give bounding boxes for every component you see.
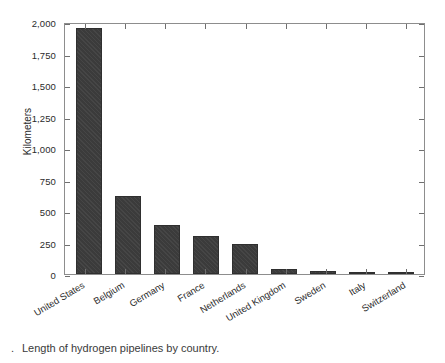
- x-axis-tick: [366, 269, 367, 274]
- x-axis-tick-top: [165, 24, 166, 29]
- y-axis-tick-label: 250: [40, 238, 56, 249]
- x-axis-tick: [406, 269, 407, 274]
- x-axis-tick: [286, 269, 287, 274]
- y-axis-tick-label: 1,000: [32, 144, 56, 155]
- bar[interactable]: [154, 225, 180, 274]
- bar[interactable]: [76, 28, 102, 274]
- y-axis-tick-right: [419, 24, 424, 25]
- plot-area: [64, 23, 425, 275]
- bar[interactable]: [388, 272, 414, 274]
- y-axis-tick-label: 1,750: [32, 49, 56, 60]
- x-axis-tick-top: [406, 24, 407, 29]
- x-axis-tick-top: [366, 24, 367, 29]
- x-axis-tick-top: [326, 24, 327, 29]
- bar[interactable]: [271, 269, 297, 274]
- x-axis-tick: [205, 269, 206, 274]
- y-axis-tick: [65, 150, 70, 151]
- y-axis-tick-right: [419, 213, 424, 214]
- bar-slot: [108, 24, 147, 274]
- caption-marker: .: [0, 341, 16, 355]
- y-axis-tick: [65, 182, 70, 183]
- bar-slot: [225, 24, 264, 274]
- y-axis-tick-label: 750: [40, 175, 56, 186]
- bar-slot: [147, 24, 186, 274]
- y-axis-tick-right: [419, 87, 424, 88]
- y-axis-tick: [65, 213, 70, 214]
- x-axis-tick: [165, 269, 166, 274]
- y-axis-tick-right: [419, 182, 424, 183]
- y-axis-tick: [65, 24, 70, 25]
- y-axis-tick-label: 1,500: [32, 81, 56, 92]
- y-axis-tick-label: 500: [40, 207, 56, 218]
- x-axis-tick-top: [246, 24, 247, 29]
- x-axis-tick-top: [286, 24, 287, 29]
- bar-slot: [264, 24, 303, 274]
- bars-layer: [65, 24, 424, 274]
- bar[interactable]: [310, 271, 336, 274]
- y-axis-tick-label: 0: [51, 270, 56, 281]
- x-axis-tick: [85, 269, 86, 274]
- y-axis-tick-right: [419, 56, 424, 57]
- x-axis-tick-top: [205, 24, 206, 29]
- y-axis-tick-right: [419, 150, 424, 151]
- bar-slot: [303, 24, 342, 274]
- x-axis-tick-top: [85, 24, 86, 29]
- y-axis-tick-right: [419, 245, 424, 246]
- y-axis-tick: [65, 87, 70, 88]
- y-axis-tick-label: 2,000: [32, 18, 56, 29]
- bar-slot: [69, 24, 108, 274]
- bar-slot: [186, 24, 225, 274]
- figure-container: 02505007501,0001,2501,5001,7502,000 Kilo…: [0, 0, 445, 363]
- y-axis-tick: [65, 119, 70, 120]
- bar[interactable]: [115, 196, 141, 274]
- bar[interactable]: [349, 272, 375, 274]
- bar-slot: [342, 24, 381, 274]
- y-axis-tick: [65, 56, 70, 57]
- bar[interactable]: [232, 244, 258, 274]
- caption-text: Length of hydrogen pipelines by country.: [16, 341, 219, 355]
- x-axis-tick: [125, 269, 126, 274]
- x-axis-tick-top: [125, 24, 126, 29]
- x-axis-tick-labels: United StatesBelgiumGermanyFranceNetherl…: [64, 275, 425, 337]
- x-axis-tick: [326, 269, 327, 274]
- figure-caption: . Length of hydrogen pipelines by countr…: [0, 341, 445, 363]
- bar-slot: [381, 24, 420, 274]
- y-axis-tick: [65, 245, 70, 246]
- x-axis-tick: [246, 269, 247, 274]
- y-axis-title: Kilometers: [22, 87, 33, 177]
- y-axis-tick-label: 1,250: [32, 112, 56, 123]
- y-axis-tick-right: [419, 119, 424, 120]
